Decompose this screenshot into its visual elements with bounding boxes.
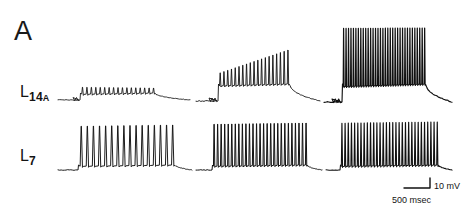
trace-l14a-trial-1 <box>58 87 190 100</box>
trace-l7-trial-3 <box>326 122 452 170</box>
figure-panel-a: A L14A L7 10 mV 500 msec <box>0 0 467 218</box>
trace-l7-trial-2 <box>196 123 322 170</box>
trace-l14a-trial-3 <box>324 28 452 103</box>
recording-traces <box>0 0 467 218</box>
scale-bar <box>404 178 430 188</box>
trace-l7-trial-1 <box>58 125 192 170</box>
trace-l14a-trial-2 <box>196 50 320 102</box>
